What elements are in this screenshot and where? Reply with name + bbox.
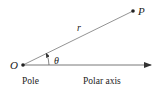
polar-axis-label: Polar axis: [83, 76, 121, 86]
pole-label: Pole: [22, 76, 39, 86]
pole-point: [21, 63, 25, 67]
point-p: [131, 9, 135, 13]
point-label: P: [137, 5, 145, 17]
radius-label: r: [77, 22, 81, 33]
polar-diagram: O P r θ Pole Polar axis: [0, 0, 156, 91]
radius-line: [23, 11, 133, 65]
origin-label: O: [10, 59, 18, 71]
angle-arc: [46, 54, 49, 65]
angle-label: θ: [54, 55, 59, 66]
